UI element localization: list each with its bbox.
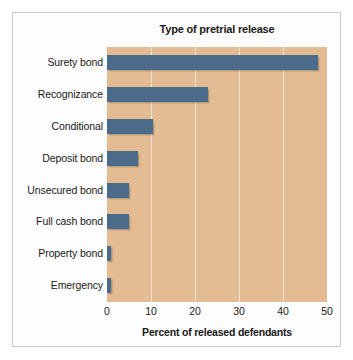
x-axis-ticks: 01020304050 — [107, 305, 327, 321]
x-tick-label: 40 — [277, 305, 289, 317]
x-tick-label: 50 — [321, 305, 333, 317]
x-axis-label: Percent of released defendants — [107, 326, 327, 338]
bar-row — [107, 47, 327, 79]
bar-row — [107, 206, 327, 238]
chart-title: Type of pretrial release — [107, 23, 327, 35]
category-label: Conditional — [0, 120, 103, 132]
bar — [107, 214, 129, 229]
x-tick-label: 20 — [189, 305, 201, 317]
plot-area — [107, 47, 327, 302]
bar — [107, 119, 153, 134]
bar — [107, 246, 111, 261]
bar — [107, 278, 111, 293]
category-label: Recognizance — [0, 88, 103, 100]
bar-row — [107, 270, 327, 302]
bar — [107, 87, 208, 102]
bar-row — [107, 175, 327, 207]
bar-row — [107, 238, 327, 270]
bar — [107, 151, 138, 166]
category-label: Property bond — [0, 247, 103, 259]
bar-row — [107, 111, 327, 143]
gridline-50 — [327, 47, 328, 302]
x-tick-label: 10 — [145, 305, 157, 317]
bar-row — [107, 143, 327, 175]
bar-series — [107, 47, 327, 302]
category-label: Deposit bond — [0, 152, 103, 164]
bar — [107, 55, 318, 70]
x-tick-label: 30 — [233, 305, 245, 317]
category-label: Surety bond — [0, 56, 103, 68]
bar — [107, 183, 129, 198]
category-axis-labels: Surety bondRecognizanceConditionalDeposi… — [0, 47, 103, 302]
category-label: Unsecured bond — [0, 184, 103, 196]
chart-figure: Type of pretrial release Surety bondReco… — [0, 0, 353, 360]
bar-row — [107, 79, 327, 111]
category-label: Emergency — [0, 279, 103, 291]
x-tick-label: 0 — [104, 305, 110, 317]
category-label: Full cash bond — [0, 215, 103, 227]
